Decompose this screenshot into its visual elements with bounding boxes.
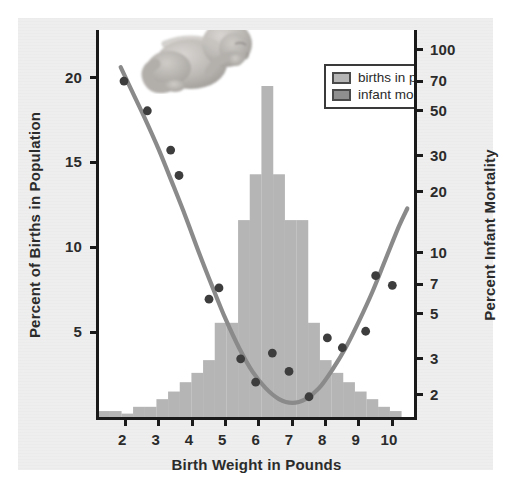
- scatter-dot: [268, 349, 277, 358]
- y-tick-label-right: 100: [430, 41, 456, 58]
- scatter-dot: [305, 392, 314, 401]
- x-tick: [357, 417, 360, 426]
- legend-swatch-mortality: [332, 89, 351, 101]
- x-tick-label: 10: [369, 431, 409, 448]
- y-tick-left: [90, 161, 99, 164]
- scatter-dot: [338, 343, 347, 352]
- y-tick-label-right: 7: [430, 275, 439, 292]
- x-tick: [391, 417, 394, 426]
- x-tick: [291, 417, 294, 426]
- x-tick: [124, 417, 127, 426]
- y-tick-right: [414, 393, 423, 396]
- legend-swatch-births: [332, 72, 351, 84]
- legend: births in population infant mortality: [324, 64, 414, 109]
- y-tick-right: [414, 357, 423, 360]
- scatter-dot: [175, 171, 184, 180]
- y-tick-right: [414, 312, 423, 315]
- scatter-dot: [251, 378, 260, 387]
- y-tick-label-right: 3: [430, 350, 439, 367]
- x-tick: [224, 417, 227, 426]
- y-tick-label-right: 2: [430, 386, 439, 403]
- x-tick: [191, 417, 194, 426]
- scatter-dot: [285, 367, 294, 376]
- scatter-dot: [166, 146, 175, 155]
- scatter-dot: [120, 77, 129, 86]
- legend-item-births: births in population: [332, 70, 414, 85]
- y-tick-right: [414, 109, 423, 112]
- scatter-dot: [323, 334, 332, 343]
- scatter-dot: [371, 271, 380, 280]
- scatter-dot: [215, 284, 224, 293]
- scatter-dot: [388, 281, 397, 290]
- scatter-dot: [205, 295, 214, 304]
- y-tick-label-left: 15: [0, 153, 82, 170]
- plot-inner: births in population infant mortality: [99, 30, 414, 417]
- y-tick-right: [414, 48, 423, 51]
- y-tick-label-right: 10: [430, 244, 447, 261]
- legend-label-births: births in population: [358, 70, 414, 85]
- y-tick-label-right: 70: [430, 72, 447, 89]
- x-axis-title: Birth Weight in Pounds: [99, 456, 414, 473]
- y-tick-left: [90, 331, 99, 334]
- figure-root: Percent of Births in Population Percent …: [0, 0, 511, 489]
- y-tick-left: [90, 246, 99, 249]
- y-axis-title-left: Percent of Births in Population: [26, 112, 43, 338]
- y-tick-label-left: 20: [0, 69, 82, 86]
- y-tick-left: [90, 76, 99, 79]
- scatter-dot: [236, 354, 245, 363]
- plot-area: births in population infant mortality: [96, 30, 417, 420]
- y-tick-label-right: 50: [430, 102, 447, 119]
- x-tick: [157, 417, 160, 426]
- y-tick-label-right: 20: [430, 183, 447, 200]
- x-tick: [257, 417, 260, 426]
- legend-label-mortality: infant mortality: [358, 87, 414, 102]
- y-tick-label-left: 5: [0, 323, 82, 340]
- y-tick-label-left: 10: [0, 238, 82, 255]
- scatter-dot: [143, 106, 152, 115]
- x-tick: [324, 417, 327, 426]
- y-axis-title-right: Percent Infant Mortality: [481, 149, 498, 321]
- y-tick-right: [414, 251, 423, 254]
- y-tick-label-right: 30: [430, 147, 447, 164]
- y-tick-right: [414, 190, 423, 193]
- y-tick-label-right: 5: [430, 305, 439, 322]
- y-tick-right: [414, 283, 423, 286]
- scatter-dot: [361, 327, 370, 336]
- y-tick-right: [414, 154, 423, 157]
- y-tick-right: [414, 80, 423, 83]
- legend-item-mortality: infant mortality: [332, 87, 414, 102]
